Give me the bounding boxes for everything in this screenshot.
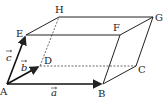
vertex-label-D: D [44, 55, 52, 66]
vertex-label-F: F [113, 22, 120, 33]
vector-label-b: b [21, 62, 27, 73]
parallelepiped-diagram: H G E F D C A B a b c [0, 0, 167, 100]
vertex-label-G: G [155, 12, 163, 23]
vertex-label-A: A [0, 86, 8, 97]
vertex-label-E: E [16, 28, 23, 39]
vectors [7, 37, 101, 84]
vector-label-a-group: a [51, 87, 57, 98]
vector-label-c: c [6, 52, 12, 63]
vector-label-b-group: b [21, 60, 27, 73]
hidden-edges [40, 17, 136, 66]
vector-label-c-group: c [6, 50, 12, 63]
vertex-label-B: B [98, 88, 105, 99]
edge-EH [26, 17, 59, 35]
vector-label-a: a [51, 87, 57, 98]
vertex-label-H: H [55, 4, 64, 15]
vertex-label-C: C [138, 64, 146, 75]
visible-edges [26, 17, 153, 84]
